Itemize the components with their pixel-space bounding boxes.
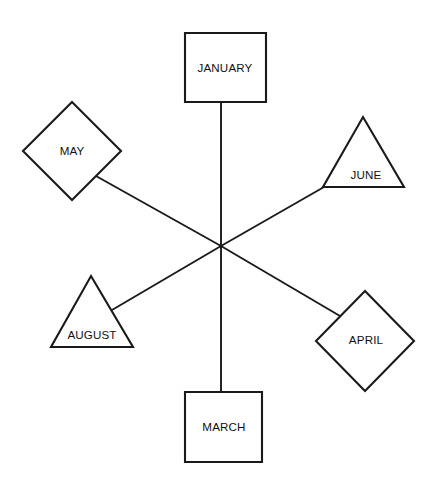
edge-june-hub bbox=[221, 187, 324, 246]
march-label: MARCH bbox=[202, 420, 245, 433]
node-may[interactable]: MAY bbox=[23, 102, 121, 200]
node-april[interactable]: APRIL bbox=[316, 291, 414, 391]
january-label: JANUARY bbox=[198, 61, 253, 74]
node-january[interactable]: JANUARY bbox=[185, 33, 266, 102]
edge-may-hub bbox=[96, 176, 221, 246]
node-march[interactable]: MARCH bbox=[185, 392, 262, 462]
node-august[interactable]: AUGUST bbox=[51, 276, 133, 347]
node-june[interactable]: JUNE bbox=[323, 117, 404, 187]
edge-april-hub bbox=[221, 246, 340, 316]
shape-diagram: JANUARY MAY JUNE AUGUST APRIL MARCH bbox=[0, 0, 435, 491]
diagram-canvas: JANUARY MAY JUNE AUGUST APRIL MARCH bbox=[0, 0, 435, 491]
august-label: AUGUST bbox=[67, 328, 116, 341]
connector-layer bbox=[96, 102, 340, 392]
may-label: MAY bbox=[60, 144, 85, 157]
june-label: JUNE bbox=[351, 168, 382, 181]
april-label: APRIL bbox=[349, 333, 384, 346]
edge-august-hub bbox=[112, 246, 221, 310]
